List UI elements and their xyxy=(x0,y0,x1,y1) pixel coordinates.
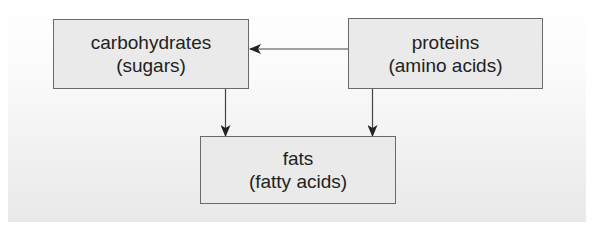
node-carbohydrates-subtitle: (sugars) xyxy=(116,54,186,77)
node-proteins-title: proteins xyxy=(412,31,480,54)
node-carbohydrates-title: carbohydrates xyxy=(91,31,211,54)
node-proteins-subtitle: (amino acids) xyxy=(388,54,502,77)
node-carbohydrates: carbohydrates (sugars) xyxy=(53,19,249,89)
node-fats-subtitle: (fatty acids) xyxy=(249,170,347,193)
node-fats: fats (fatty acids) xyxy=(200,136,396,204)
node-proteins: proteins (amino acids) xyxy=(348,18,543,89)
node-fats-title: fats xyxy=(283,147,314,170)
